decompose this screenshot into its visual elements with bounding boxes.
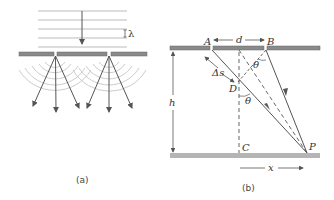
wavelength-marker: [124, 30, 127, 37]
perpendicular-B-D: [238, 50, 266, 82]
label-theta-bottom: θ: [245, 95, 251, 106]
panel-b: A d B h Δs D θ θ C P: [169, 34, 320, 193]
ray-A-P: [212, 50, 307, 153]
label-delta-s: Δs: [211, 67, 224, 78]
caption-b: (b): [242, 183, 255, 193]
label-D: D: [228, 83, 237, 94]
diagram-canvas: λ (a): [0, 0, 334, 200]
diffracted-arcs: [19, 62, 146, 91]
panel-a: λ (a): [19, 11, 147, 185]
caption-a: (a): [76, 175, 89, 185]
barrier-b: [170, 46, 320, 50]
label-h: h: [169, 97, 175, 108]
ray-B-P: [266, 50, 307, 153]
label-C: C: [242, 142, 250, 153]
theta-arc-top: [258, 59, 266, 60]
wavelength-label: λ: [128, 28, 135, 39]
screen: [170, 153, 320, 158]
label-B: B: [266, 36, 274, 47]
label-d: d: [236, 34, 242, 45]
label-A: A: [203, 36, 211, 47]
label-theta-top: θ: [253, 59, 259, 70]
barrier-a: [19, 52, 147, 56]
label-P: P: [308, 141, 316, 152]
label-x: x: [268, 162, 274, 173]
